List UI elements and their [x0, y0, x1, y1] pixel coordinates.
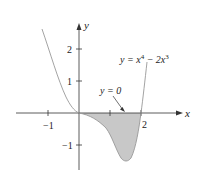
graph: x y −1 2 2 1 −1 y = x4 − 2x3 y = 0 — [0, 0, 198, 181]
annotation-label: y = 0 — [99, 85, 121, 96]
y-axis-label: y — [83, 19, 89, 31]
equation-label: y = x4 − 2x3 — [119, 53, 169, 65]
annotation-arrow — [113, 96, 123, 110]
shaded-region — [79, 113, 141, 161]
y-tick-label-neg1: −1 — [62, 140, 73, 151]
x-tick-label-neg1: −1 — [43, 120, 54, 131]
y-axis-arrow-icon — [77, 23, 82, 30]
annotation-arrowhead-icon — [120, 107, 125, 112]
x-tick-label-2: 2 — [142, 119, 147, 130]
x-axis-label: x — [184, 107, 190, 119]
y-tick-label-1: 1 — [67, 76, 72, 87]
x-axis-arrow-icon — [176, 111, 183, 116]
y-tick-label-2: 2 — [67, 44, 72, 55]
